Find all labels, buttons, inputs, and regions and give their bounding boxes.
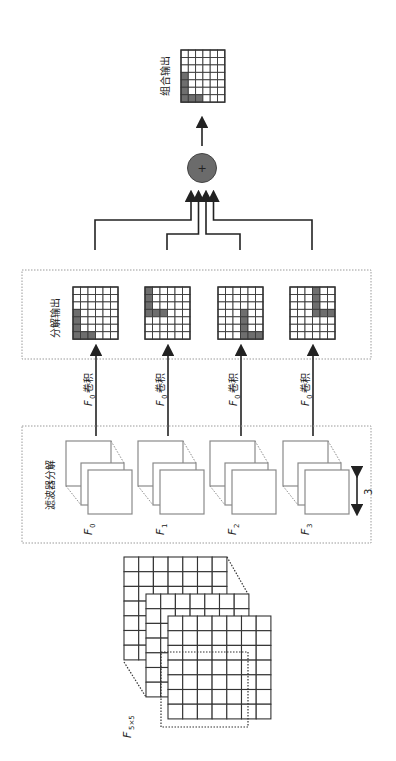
grid-cell bbox=[88, 317, 96, 324]
convolution-label: F0卷积 bbox=[227, 373, 242, 406]
filter-label-sub: 0 bbox=[89, 524, 97, 528]
grid-cell bbox=[290, 287, 298, 294]
grid-cell bbox=[111, 287, 119, 294]
grid-cell bbox=[226, 332, 234, 339]
grid-cell bbox=[218, 65, 225, 72]
input-cell bbox=[124, 557, 139, 572]
grid-cell bbox=[226, 287, 234, 294]
input-cell bbox=[124, 586, 139, 601]
input-cell bbox=[168, 704, 183, 719]
input-cell bbox=[242, 631, 257, 646]
grid-cell bbox=[305, 317, 313, 324]
convolution-label-symbol: F bbox=[228, 400, 239, 406]
grid-cell bbox=[313, 324, 321, 331]
input-cell bbox=[256, 690, 271, 705]
grid-cell bbox=[313, 287, 321, 294]
grid-cell bbox=[153, 309, 161, 316]
grid-cell bbox=[218, 80, 225, 87]
input-cell bbox=[212, 704, 227, 719]
filter-layer-front bbox=[88, 470, 132, 514]
input-cell bbox=[227, 690, 242, 705]
grid-cell bbox=[290, 294, 298, 301]
grid-cell bbox=[103, 287, 111, 294]
grid-cell bbox=[73, 324, 81, 331]
grid-cell bbox=[103, 302, 111, 309]
grid-cell bbox=[188, 72, 195, 79]
input-cell bbox=[205, 594, 220, 609]
input-cell bbox=[212, 690, 227, 705]
grid-cell bbox=[160, 317, 168, 324]
grid-cell bbox=[313, 317, 321, 324]
filter-layer-front bbox=[305, 470, 349, 514]
grid-cell bbox=[153, 332, 161, 339]
grid-cell bbox=[145, 309, 153, 316]
grid-cell bbox=[233, 302, 241, 309]
convolution-label: F0卷积 bbox=[154, 373, 169, 406]
grid-cell bbox=[181, 65, 188, 72]
input-cell bbox=[242, 645, 257, 660]
input-cell bbox=[183, 572, 198, 587]
grid-cell bbox=[188, 80, 195, 87]
filter-F3: F3 bbox=[283, 441, 349, 535]
grid-cell bbox=[256, 294, 264, 301]
grid-cell bbox=[175, 294, 183, 301]
filter-label-sub: 2 bbox=[233, 524, 241, 528]
input-cell bbox=[212, 660, 227, 675]
input-cell bbox=[212, 616, 227, 631]
grid-cell bbox=[196, 72, 203, 79]
grid-cell bbox=[241, 317, 249, 324]
convolution-label-symbol: F bbox=[155, 400, 166, 406]
input-cell bbox=[175, 594, 190, 609]
grid-cell bbox=[88, 309, 96, 316]
grid-cell bbox=[203, 72, 210, 79]
input-cell bbox=[212, 675, 227, 690]
grid-cell bbox=[256, 324, 264, 331]
grid-cell bbox=[153, 287, 161, 294]
grid-cell bbox=[96, 324, 104, 331]
combined-output-label: 组合输出 bbox=[159, 56, 171, 96]
grid-cell bbox=[218, 294, 226, 301]
grid-cell bbox=[196, 57, 203, 64]
grid-cell bbox=[145, 324, 153, 331]
input-label-sub: 5×5 bbox=[128, 715, 136, 730]
grid-cell bbox=[298, 294, 306, 301]
grid-cell bbox=[305, 287, 313, 294]
input-cell bbox=[242, 660, 257, 675]
grid-cell bbox=[175, 302, 183, 309]
decomposition-grid-4 bbox=[290, 287, 335, 339]
connectors bbox=[95, 196, 312, 250]
input-cell bbox=[146, 682, 161, 697]
grid-cell bbox=[328, 324, 336, 331]
input-cell bbox=[168, 690, 183, 705]
perspective-line bbox=[138, 486, 153, 505]
grid-cell bbox=[160, 294, 168, 301]
grid-cell bbox=[241, 294, 249, 301]
grid-cell bbox=[188, 87, 195, 94]
grid-cell bbox=[290, 332, 298, 339]
input-cell bbox=[183, 675, 198, 690]
grid-cell bbox=[145, 317, 153, 324]
grid-cell bbox=[203, 65, 210, 72]
grid-cell bbox=[168, 317, 176, 324]
grid-cell bbox=[188, 50, 195, 57]
grid-cell bbox=[160, 309, 168, 316]
grid-cell bbox=[103, 324, 111, 331]
perspective-line bbox=[255, 441, 268, 463]
input-cell bbox=[146, 594, 161, 609]
filter-label-sub: 3 bbox=[306, 524, 314, 528]
grid-cell bbox=[196, 65, 203, 72]
connector-2 bbox=[167, 196, 199, 250]
convolution-arrows: F0卷积F0卷积F0卷积F0卷积 bbox=[82, 350, 314, 436]
grid-cell bbox=[290, 324, 298, 331]
grid-cell bbox=[145, 287, 153, 294]
convolution-label-sub: 0 bbox=[234, 395, 242, 399]
decomposition-output-grids bbox=[73, 287, 335, 339]
decomposition-grid-3 bbox=[218, 287, 263, 339]
input-cell bbox=[227, 616, 242, 631]
grid-cell bbox=[196, 80, 203, 87]
grid-cell bbox=[218, 332, 226, 339]
perspective-line bbox=[227, 557, 248, 594]
perspective-line bbox=[66, 486, 81, 505]
grid-cell bbox=[96, 317, 104, 324]
input-cell bbox=[190, 594, 205, 609]
